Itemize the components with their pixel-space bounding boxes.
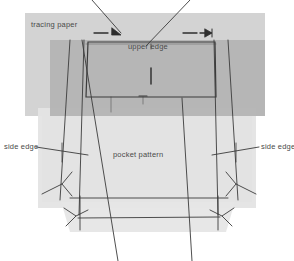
label-upper-edge: upper edge [128,43,168,51]
label-side-edge-right: side edge [261,143,294,151]
label-side-edge-left: side edge [4,143,38,151]
fabric-hem-sheet [60,198,236,232]
fabric-skirt-sheet [42,116,252,202]
label-pocket-pattern: pocket pattern [113,151,163,159]
diagram-canvas [0,0,294,261]
label-tracing-paper: tracing paper [31,21,77,29]
pattern-diagram-figure: tracing paper upper edge pocket pattern … [0,0,294,261]
